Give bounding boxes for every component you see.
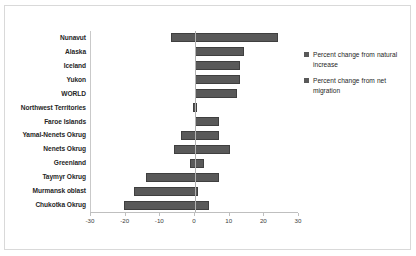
axis-tick-mark [90, 213, 91, 216]
value-axis: -30-20-100102030 [90, 212, 298, 232]
legend-swatch-icon [304, 52, 309, 57]
legend-swatch-icon [304, 78, 309, 83]
category-label: Nenets Okrug [4, 145, 86, 153]
category-label: Taymyr Okrug [4, 173, 86, 181]
bar [181, 131, 219, 140]
bar [195, 75, 240, 84]
bar [190, 159, 204, 168]
axis-tick-label: -10 [147, 217, 171, 224]
category-label: Murmansk oblast [4, 187, 86, 195]
axis-tick-mark [229, 213, 230, 216]
legend-entry: Percent change from natural increase [304, 50, 408, 69]
chart-legend: Percent change from natural increasePerc… [304, 50, 408, 102]
axis-tick-label: -20 [113, 217, 137, 224]
category-label: Alaska [4, 48, 86, 56]
bar [195, 47, 244, 56]
axis-tick-label: 0 [182, 217, 206, 224]
category-label: Northwest Territories [4, 104, 86, 112]
bar [195, 117, 219, 126]
category-axis: NunavutAlaskaIcelandYukonWORLDNorthwest … [5, 31, 88, 212]
bar [171, 33, 278, 42]
bar [195, 89, 237, 98]
category-label: Nunavut [4, 34, 86, 42]
axis-tick-mark [125, 213, 126, 216]
legend-label: Percent change from natural increase [313, 51, 397, 68]
bar [146, 173, 219, 182]
axis-tick-mark [263, 213, 264, 216]
axis-tick-label: 30 [286, 217, 310, 224]
axis-tick-mark [159, 213, 160, 216]
category-label: Yamal-Nenets Okrug [4, 131, 86, 139]
axis-tick-mark [298, 213, 299, 216]
category-label: WORLD [4, 90, 86, 98]
plot-area [90, 31, 298, 212]
chart-frame: NunavutAlaskaIcelandYukonWORLDNorthwest … [4, 5, 411, 250]
category-label: Yukon [4, 76, 86, 84]
category-label: Faroe Islands [4, 118, 86, 126]
category-label: Greenland [4, 159, 86, 167]
axis-tick-mark [194, 213, 195, 216]
bar [195, 61, 240, 70]
legend-entry: Percent change from net migration [304, 76, 408, 95]
zero-baseline [195, 31, 196, 212]
axis-tick-label: -30 [78, 217, 102, 224]
bar [174, 145, 229, 154]
legend-label: Percent change from net migration [313, 77, 386, 94]
bar [124, 201, 209, 210]
category-label: Chukotka Okrug [4, 201, 86, 209]
axis-tick-label: 10 [217, 217, 241, 224]
axis-tick-label: 20 [251, 217, 275, 224]
category-label: Iceland [4, 62, 86, 70]
bar-chart: NunavutAlaskaIcelandYukonWORLDNorthwest … [5, 6, 410, 249]
bar [134, 187, 198, 196]
